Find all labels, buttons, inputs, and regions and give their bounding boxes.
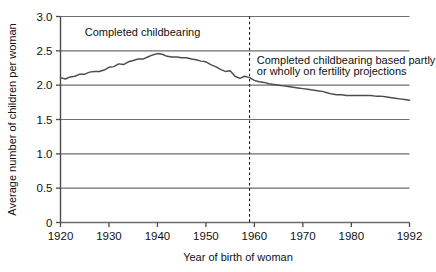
y-tick-label-0: 0 [46,217,52,229]
x-tick-label-1930: 1930 [96,230,122,242]
x-tick-label-1950: 1950 [193,230,219,242]
x-tick-label-group: 19201930194019501960197019801992 [48,230,423,242]
line-chart: 00.51.01.52.02.53.0 19201930194019501960… [0,0,436,272]
y-tick-label-group: 00.51.01.52.02.53.0 [37,11,53,229]
x-tick-label-1980: 1980 [339,230,365,242]
x-tick-label-1992: 1992 [397,230,423,242]
y-tick-label-1.5: 1.5 [37,114,53,126]
gridlines-group [61,17,410,223]
x-tick-label-1960: 1960 [242,230,268,242]
projection-label-line2: or wholly on fertility projections [257,65,407,77]
x-axis-title: Year of birth of woman [183,251,293,263]
x-tick-label-1920: 1920 [48,230,74,242]
y-tick-label-1.0: 1.0 [37,148,53,160]
x-tick-label-1970: 1970 [290,230,316,242]
y-axis-title: Average number of children per woman [6,23,18,215]
y-tick-label-2.5: 2.5 [37,45,53,57]
x-tick-label-1940: 1940 [145,230,171,242]
y-tick-label-2.0: 2.0 [37,79,53,91]
completed-childbearing-label: Completed childbearing [85,26,201,38]
y-tick-label-3.0: 3.0 [37,11,53,23]
y-tick-label-0.5: 0.5 [37,182,53,194]
figure-container: 00.51.01.52.02.53.0 19201930194019501960… [0,0,436,272]
